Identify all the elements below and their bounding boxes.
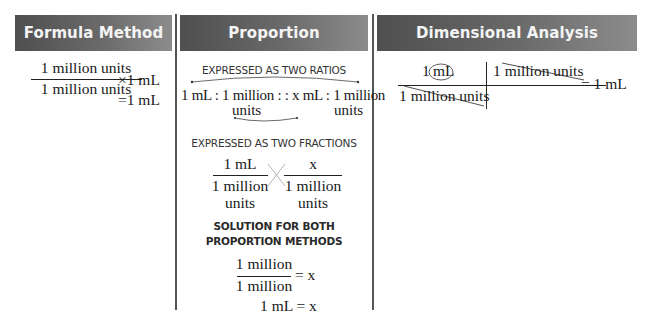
fraction1-denominator-line1: 1 million xyxy=(210,177,270,195)
ratio-extremes-arc-icon xyxy=(191,77,359,83)
fraction2-denominator-line1: 1 million xyxy=(282,177,344,195)
header-proportion: Proportion xyxy=(180,15,368,51)
ratio-units-right: units xyxy=(334,102,363,119)
fraction2-numerator: x xyxy=(284,155,342,173)
solution-label-line2: PROPORTION METHODS xyxy=(180,235,368,247)
da-numerator-right: 1 million units xyxy=(493,62,583,80)
solution-numerator: 1 million xyxy=(234,255,294,273)
da-denominator-left: 1 million units xyxy=(399,87,489,105)
fraction2-bar xyxy=(284,175,342,176)
header-proportion-label: Proportion xyxy=(228,24,319,42)
column-divider-1 xyxy=(175,14,177,310)
ratio-units-left: units xyxy=(232,102,261,119)
solution-label-line1: SOLUTION FOR BOTH xyxy=(180,220,368,232)
fraction2-denominator-line2: units xyxy=(282,194,344,212)
header-formula-method: Formula Method xyxy=(15,15,172,51)
da-result: = 1 mL xyxy=(581,75,627,93)
ratios-label: EXPRESSED AS TWO RATIOS xyxy=(180,64,368,76)
header-formula-method-label: Formula Method xyxy=(24,24,164,42)
fraction1-numerator: 1 mL xyxy=(213,155,267,173)
formula-result: =1 mL xyxy=(118,91,160,109)
fraction1-bar xyxy=(213,175,268,176)
fraction1-denominator-line2: units xyxy=(210,194,270,212)
da-numerator-left-unit: mL xyxy=(433,62,455,80)
fractions-label: EXPRESSED AS TWO FRACTIONS xyxy=(180,137,368,149)
da-numerator-left-number: 1 xyxy=(422,62,430,80)
header-dimensional-analysis: Dimensional Analysis xyxy=(377,15,637,51)
solution-final: 1 mL = x xyxy=(260,297,317,315)
solution-denominator: 1 million xyxy=(234,277,294,295)
formula-multiplier: ×1 mL xyxy=(118,71,160,89)
header-dimensional-analysis-label: Dimensional Analysis xyxy=(416,24,598,42)
column-divider-2 xyxy=(372,14,374,310)
da-fraction-bar xyxy=(398,85,606,86)
solution-equals-x: = x xyxy=(295,266,315,284)
